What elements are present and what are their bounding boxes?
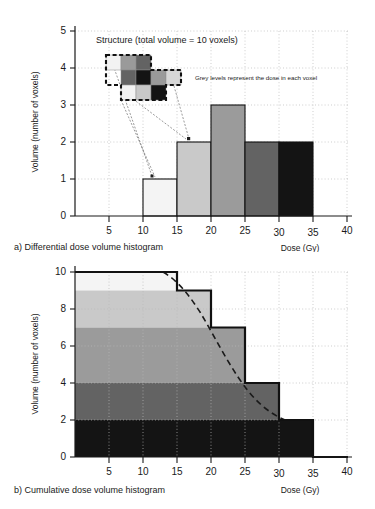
panel-a-y-ticklabels: 0 1 2 3 4 5 xyxy=(60,25,66,221)
xtick-40: 40 xyxy=(341,225,353,236)
voxel-r2c5 xyxy=(166,70,181,85)
xtick-b-40: 40 xyxy=(341,466,353,477)
xtick-35: 35 xyxy=(307,227,319,238)
ytick-b-6: 6 xyxy=(60,340,66,351)
ytick-b-2: 2 xyxy=(60,414,66,425)
xtick-b-15: 15 xyxy=(171,466,183,477)
xtick-b-35: 35 xyxy=(307,468,319,479)
panel-b-x-ticks xyxy=(109,457,347,463)
ytick-1: 1 xyxy=(60,173,66,184)
panel-b-x-ticklabels: 5 10 15 20 25 30 35 40 xyxy=(106,466,353,479)
voxel-r2c3 xyxy=(136,70,151,85)
band-4-7 xyxy=(75,328,245,384)
panel-a-caption: a) Differential dose volume histogram xyxy=(14,242,163,252)
xtick-20: 20 xyxy=(205,225,217,236)
panel-b-cumulative-histogram: 0 2 4 6 8 10 5 10 15 20 25 30 35 40 Volu… xyxy=(0,252,375,509)
band-2-4 xyxy=(75,383,279,420)
xtick-10: 10 xyxy=(137,225,149,236)
ytick-b-4: 4 xyxy=(60,377,66,388)
band-0-2 xyxy=(75,420,313,457)
voxel-r1c1 xyxy=(106,55,121,70)
voxel-r3c4 xyxy=(151,85,166,100)
xtick-25: 25 xyxy=(239,225,251,236)
ytick-5: 5 xyxy=(60,25,66,36)
voxel-r2c2 xyxy=(121,70,136,85)
grey-level-note: Grey levels represent the dose in each v… xyxy=(195,74,317,81)
ytick-3: 3 xyxy=(60,99,66,110)
panel-a-xlabel: Dose (Gy) xyxy=(281,243,320,252)
xtick-b-5: 5 xyxy=(106,466,112,477)
panel-a-differential-histogram: Structure (total volume = 10 voxels) Gre… xyxy=(0,0,375,252)
panel-a-bars xyxy=(143,105,313,216)
voxel-r3c3 xyxy=(136,85,151,100)
panel-a-x-ticks xyxy=(109,216,347,222)
bar-30-35 xyxy=(279,142,313,216)
panel-b-y-ticks xyxy=(70,272,75,457)
ytick-2: 2 xyxy=(60,136,66,147)
bar-25-30 xyxy=(245,142,279,216)
panel-b-bands xyxy=(75,272,313,457)
xtick-b-20: 20 xyxy=(205,466,217,477)
xtick-15: 15 xyxy=(171,225,183,236)
bar-10-15 xyxy=(143,179,177,216)
voxel-r2c4 xyxy=(151,70,166,85)
xtick-b-25: 25 xyxy=(239,466,251,477)
panel-b-xlabel: Dose (Gy) xyxy=(281,485,320,495)
ytick-4: 4 xyxy=(60,62,66,73)
panel-a-y-ticks xyxy=(70,31,75,216)
panel-a-ylabel: Volume (number of voxels) xyxy=(30,71,40,172)
bar-15-20 xyxy=(177,142,211,216)
voxel-r1c2 xyxy=(121,55,136,70)
xtick-5: 5 xyxy=(106,225,112,236)
xtick-b-10: 10 xyxy=(137,466,149,477)
voxel-r3c2 xyxy=(121,85,136,100)
panel-b-y-ticklabels: 0 2 4 6 8 10 xyxy=(55,266,67,462)
ytick-b-0: 0 xyxy=(60,451,66,462)
panel-b-ylabel: Volume (number of voxels) xyxy=(30,313,40,414)
ytick-b-8: 8 xyxy=(60,303,66,314)
xtick-b-30: 30 xyxy=(273,468,285,479)
bar-20-25 xyxy=(211,105,245,216)
band-9-10 xyxy=(75,272,177,291)
voxel-r1c3 xyxy=(136,55,151,70)
xtick-30: 30 xyxy=(273,227,285,238)
ytick-b-10: 10 xyxy=(55,266,67,277)
panel-b-caption: b) Cumulative dose volume histogram xyxy=(14,485,165,495)
ytick-0: 0 xyxy=(60,210,66,221)
dvh-figure: Structure (total volume = 10 voxels) Gre… xyxy=(0,0,375,509)
structure-label: Structure (total volume = 10 voxels) xyxy=(96,35,238,45)
panel-a-x-ticklabels: 5 10 15 20 25 30 35 40 xyxy=(106,225,353,238)
